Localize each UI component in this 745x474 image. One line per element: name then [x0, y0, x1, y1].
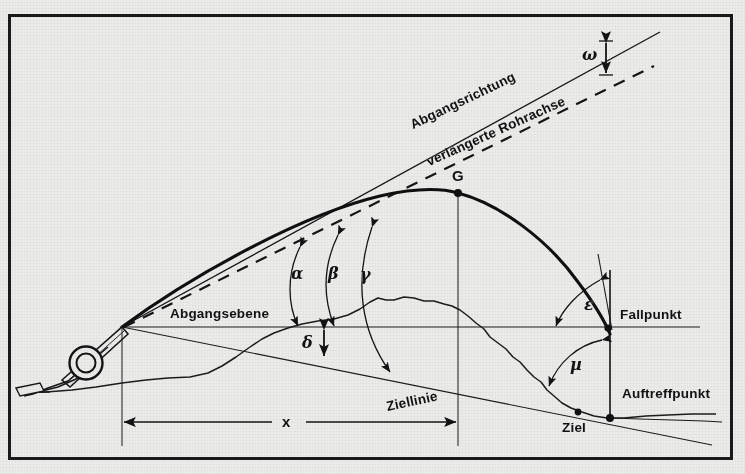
terrain-tail-right [610, 418, 722, 422]
mu-angle-label: µ [570, 357, 582, 373]
alpha-angle-label: α [291, 266, 303, 282]
alpha-angle-arc [290, 247, 300, 326]
fallpunkt-point-marker [604, 324, 611, 331]
verlaengerte-rohrachse-line [124, 66, 654, 327]
gun-wheel-hub [77, 354, 96, 373]
fallpunkt-label: Fallpunkt [620, 308, 682, 322]
abgangsebene-label: Abgangsebene [170, 307, 269, 321]
epsilon-angle-label: ε [584, 297, 594, 313]
figure-canvas: Abgangsrichtung verlängerte Rohrachse Ab… [0, 0, 745, 474]
delta-angle-label: δ [302, 335, 313, 351]
ziel-point-marker [575, 409, 582, 416]
terrain-profile [20, 297, 716, 418]
gipfelpunkt-label: G [452, 168, 464, 183]
apex-point-marker [454, 189, 462, 197]
beta-angle-label: β [328, 266, 339, 282]
x-dimension-label: x [282, 414, 290, 429]
gun-spade [16, 383, 44, 396]
ballistics-diagram-svg [0, 0, 745, 474]
omega-angle-label: ω [582, 47, 597, 63]
gamma-angle-label: γ [360, 267, 371, 283]
auftreffpunkt-point-marker [606, 414, 614, 422]
auftreffpunkt-label: Auftreffpunkt [622, 387, 710, 401]
ziel-label: Ziel [562, 421, 586, 435]
